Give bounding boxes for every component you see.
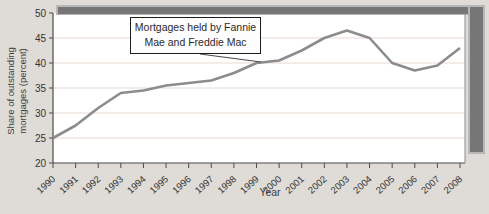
y-tick-label: 20 [35,158,47,169]
y-tick-label: 30 [35,108,47,119]
right-shadow-bar [470,7,483,152]
y-axis-title: Share of outstanding mortgages (percent) [5,26,31,156]
x-axis-title: Year [240,186,300,198]
y-tick-label: 35 [35,83,47,94]
annotation-callout: Mortgages held by Fannie Mae and Freddie… [130,17,261,54]
top-shadow-bar [58,7,483,14]
y-tick-label: 45 [35,33,47,44]
y-tick-label: 40 [35,58,47,69]
figure-container: 1990199119921993199419951996199719981999… [0,0,489,214]
y-tick-label: 25 [35,133,47,144]
y-tick-label: 50 [35,8,47,19]
